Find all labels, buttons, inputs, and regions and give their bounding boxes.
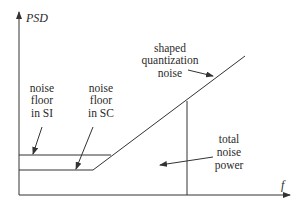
arrow-noise-floor-si <box>33 127 42 154</box>
svg-text:total: total <box>219 133 239 145</box>
y-axis-label: PSD <box>25 11 48 25</box>
svg-text:power: power <box>215 159 244 172</box>
label-shaped-quantization-noise: shaped quantization noise <box>142 42 199 79</box>
psd-diagram: PSD f shaped quantization noise noise fl… <box>0 0 303 205</box>
svg-text:noise: noise <box>89 82 113 94</box>
arrow-shaped-noise <box>188 70 213 76</box>
svg-text:noise: noise <box>158 67 182 79</box>
x-axis-label: f <box>281 178 286 192</box>
svg-text:noise: noise <box>30 82 54 94</box>
arrow-noise-floor-sc <box>76 127 93 169</box>
label-noise-floor-si: noise floor in SI <box>30 82 54 119</box>
svg-text:in SI: in SI <box>31 107 53 119</box>
label-noise-floor-sc: noise floor in SC <box>88 82 114 119</box>
svg-text:floor: floor <box>31 94 54 106</box>
svg-text:noise: noise <box>217 146 241 158</box>
svg-text:in SC: in SC <box>88 107 114 119</box>
svg-text:floor: floor <box>90 94 113 106</box>
svg-text:quantization: quantization <box>142 54 199 67</box>
label-total-noise-power: total noise power <box>215 133 244 172</box>
